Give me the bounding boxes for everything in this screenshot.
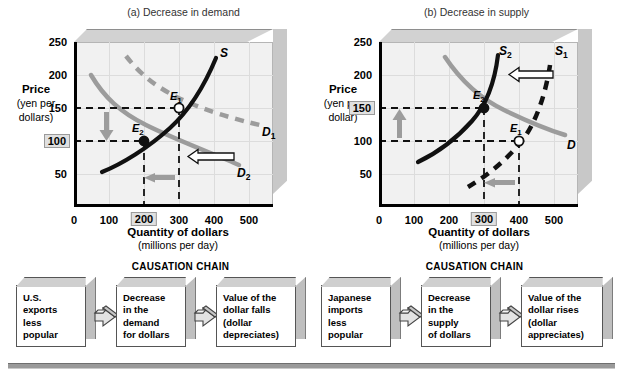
y-tick-50: 50 bbox=[360, 168, 372, 180]
curve-demand bbox=[445, 57, 565, 135]
equilibrium-label-E2: E2 bbox=[473, 89, 485, 104]
chain-b-arrow-1 bbox=[397, 307, 423, 327]
panel-a-x-axis-label: Quantity of dollars (millions per day) bbox=[58, 226, 298, 252]
causation-chain-a: CAUSATION CHAIN U.S.exportslesspopular D… bbox=[0, 255, 311, 365]
chart-box-top-bevel bbox=[379, 29, 578, 42]
panel-a-title: (a) Decrease in demand bbox=[0, 6, 339, 18]
equilibrium-label-E2: E2 bbox=[132, 122, 144, 137]
chain-b-box-3-text: Value of thedollar rises(dollarappreciat… bbox=[528, 292, 596, 342]
x-tick-200: 200 bbox=[440, 214, 458, 226]
supply-shift-arrow bbox=[509, 68, 553, 82]
y-tick-250: 250 bbox=[49, 36, 67, 48]
x-axis-label-sub: (millions per day) bbox=[138, 239, 218, 251]
curve-label-supply-1: S1 bbox=[555, 44, 568, 60]
x-tick-400: 400 bbox=[205, 214, 223, 226]
chart-box-right-bevel bbox=[578, 29, 592, 194]
box-top-bevel bbox=[116, 277, 186, 287]
chain-a-arrow-2 bbox=[192, 307, 218, 327]
chain-a-box-3: Value of thedollar falls(dollardepreciat… bbox=[216, 285, 296, 347]
panel-decrease-in-supply: (b) Decrease in supply Price (yen per do… bbox=[311, 0, 622, 250]
chain-b-box-1: Japaneseimportslesspopular bbox=[321, 285, 391, 347]
box-right-bevel bbox=[603, 277, 613, 339]
equilibrium-marker-E1 bbox=[514, 136, 523, 145]
x-tick-500: 500 bbox=[545, 214, 563, 226]
x-tick-0: 0 bbox=[376, 214, 382, 226]
y-tick-200: 200 bbox=[49, 69, 67, 81]
chain-a-box-3-text: Value of thedollar falls(dollardepreciat… bbox=[223, 292, 289, 342]
chain-b-arrow-2 bbox=[497, 307, 523, 327]
y-tick-200: 200 bbox=[354, 69, 372, 81]
chart-box-right-bevel bbox=[273, 29, 287, 194]
chart-box-top-bevel bbox=[74, 29, 273, 42]
quantity-decrease-arrow bbox=[144, 173, 175, 183]
causation-chain-b-title: CAUSATION CHAIN bbox=[311, 261, 623, 272]
panel-decrease-in-demand: (a) Decrease in demand Price (yen per do… bbox=[0, 0, 311, 250]
panel-b-chart: 250 200 150 100 50 0 100 200 300 400 500… bbox=[379, 42, 584, 207]
chain-a-box-2: Decreasein thedemandfor dollars bbox=[116, 285, 186, 347]
y-axis-label-main: Price bbox=[22, 83, 50, 95]
y-tick-150-highlighted: 150 bbox=[349, 101, 375, 115]
chain-b-box-2: Decreasein thesupplyof dollars bbox=[421, 285, 491, 347]
price-increase-arrow bbox=[393, 109, 407, 138]
box-right-bevel bbox=[296, 277, 306, 339]
y-tick-100: 100 bbox=[354, 135, 372, 147]
box-top-bevel bbox=[321, 277, 391, 287]
panel-b-x-axis-label: Quantity of dollars (millions per day) bbox=[359, 226, 599, 252]
chain-a-box-1: U.S.exportslesspopular bbox=[16, 285, 86, 347]
y-tick-50: 50 bbox=[55, 168, 67, 180]
x-axis-label-main: Quantity of dollars bbox=[428, 226, 530, 238]
y-tick-150: 150 bbox=[49, 102, 67, 114]
y-tick-100-highlighted: 100 bbox=[44, 134, 70, 148]
curve-label-supply-2: S2 bbox=[499, 44, 512, 60]
curve-label-demand: D bbox=[567, 138, 576, 152]
equilibrium-marker-E2 bbox=[139, 136, 148, 145]
y-axis-line bbox=[379, 42, 382, 207]
chain-b-box-1-text: Japaneseimportslesspopular bbox=[328, 292, 384, 342]
price-decrease-arrow bbox=[100, 112, 114, 141]
equilibrium-label-E1: E1 bbox=[170, 90, 182, 105]
x-tick-0: 0 bbox=[71, 214, 77, 226]
quantity-decrease-arrow bbox=[484, 178, 515, 188]
x-tick-300-highlighted: 300 bbox=[471, 212, 497, 226]
x-axis-line bbox=[379, 204, 578, 207]
x-axis-label-sub: (millions per day) bbox=[439, 239, 519, 251]
panel-a-chart: 250 200 150 100 50 0 100 200 300 400 500… bbox=[74, 42, 279, 207]
x-axis-line bbox=[74, 204, 273, 207]
y-axis-label-main: Price bbox=[329, 83, 357, 95]
box-top-bevel bbox=[216, 277, 296, 287]
x-tick-300: 300 bbox=[170, 214, 188, 226]
curve-label-demand-1: D1 bbox=[262, 125, 275, 141]
x-tick-100: 100 bbox=[100, 214, 118, 226]
panel-b-plot-area: 250 200 150 100 50 0 100 200 300 400 500 bbox=[379, 42, 578, 207]
x-tick-200-highlighted: 200 bbox=[131, 212, 157, 226]
chain-b-box-3: Value of thedollar rises(dollarappreciat… bbox=[521, 285, 603, 347]
chain-a-box-2-text: Decreasein thedemandfor dollars bbox=[123, 292, 179, 342]
box-top-bevel bbox=[521, 277, 603, 287]
causation-chain-a-title: CAUSATION CHAIN bbox=[0, 261, 336, 272]
panel-b-title: (b) Decrease in supply bbox=[311, 6, 623, 18]
x-axis-label-main: Quantity of dollars bbox=[127, 226, 229, 238]
curve-label-demand-2: D2 bbox=[237, 166, 250, 182]
causation-chain-b: CAUSATION CHAIN Japaneseimportslesspopul… bbox=[311, 255, 622, 365]
y-axis-line bbox=[74, 42, 77, 207]
y-tick-250: 250 bbox=[354, 36, 372, 48]
box-top-bevel bbox=[421, 277, 491, 287]
curve-label-supply: S bbox=[220, 46, 228, 60]
x-tick-100: 100 bbox=[405, 214, 423, 226]
equilibrium-marker-E2 bbox=[479, 103, 488, 112]
curve-demand-1 bbox=[126, 56, 264, 126]
box-top-bevel bbox=[16, 277, 86, 287]
chain-a-arrow-1 bbox=[92, 307, 118, 327]
x-tick-400: 400 bbox=[510, 214, 528, 226]
equilibrium-label-E1: E1 bbox=[510, 122, 522, 137]
panel-b-curves bbox=[379, 42, 578, 207]
chain-a-box-1-text: U.S.exportslesspopular bbox=[23, 292, 79, 342]
chain-b-box-2-text: Decreasein thesupplyof dollars bbox=[428, 292, 484, 342]
x-tick-500: 500 bbox=[240, 214, 258, 226]
bottom-separator-rule bbox=[8, 363, 615, 369]
